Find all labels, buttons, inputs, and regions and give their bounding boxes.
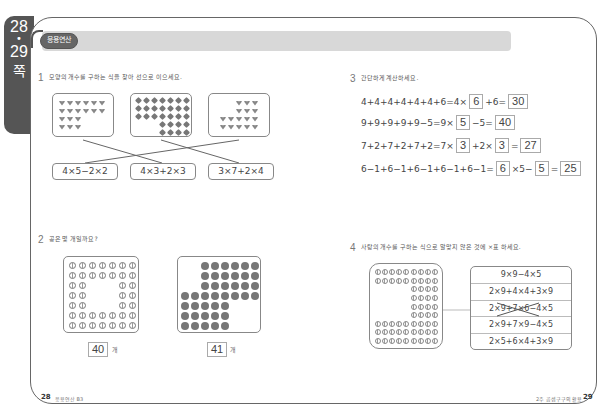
grid-cell — [381, 320, 388, 329]
candy-icon — [425, 286, 431, 292]
formula-choice-4[interactable]: 2×9+7×9−4×5 — [471, 317, 571, 334]
question-instruction: 간단하게 계산하세요. — [361, 74, 419, 81]
candy-icon — [382, 269, 388, 275]
grid-cell — [67, 320, 77, 330]
answer-box[interactable]: 27 — [520, 138, 540, 153]
equation-2: 9+9+9+9+9−5=9×5−5=40 — [361, 115, 517, 130]
grid-cell — [432, 311, 439, 320]
grid-cell — [417, 285, 424, 294]
candy-icon — [418, 304, 424, 310]
grid-cell — [127, 280, 137, 290]
answer-box[interactable]: 5 — [535, 161, 549, 176]
grid-cell — [388, 294, 395, 303]
baseball-icon — [109, 312, 116, 319]
grid-cell — [424, 268, 431, 277]
grid-cell — [190, 311, 200, 321]
right-footer-text: 2주 곱셈구구의 활용 — [536, 395, 582, 402]
candy-icon — [418, 312, 424, 318]
grid-cell — [424, 294, 431, 303]
candy-icon — [425, 304, 431, 310]
answer-box[interactable]: 6 — [469, 94, 483, 109]
grid-cell — [424, 328, 431, 337]
grid-cell — [410, 320, 417, 329]
candy-icon — [411, 304, 417, 310]
answer-box[interactable]: 5 — [456, 115, 470, 130]
candy-icon — [403, 278, 409, 284]
ball-grid — [180, 261, 260, 331]
grid-cell — [230, 281, 240, 291]
answer-box[interactable]: 40 — [495, 115, 515, 130]
connection-line — [83, 140, 162, 163]
grid-cell — [240, 291, 250, 301]
grid-cell — [127, 270, 137, 280]
grid-cell — [410, 294, 417, 303]
answer-box-2[interactable]: 41 — [207, 342, 227, 357]
candy-icon — [418, 338, 424, 344]
candy-icon — [389, 278, 395, 284]
baseball-icon — [129, 312, 136, 319]
grid-cell — [107, 300, 117, 310]
formula-choice-2[interactable]: 2×9+4×4+3×9 — [471, 284, 571, 301]
grid-cell — [220, 311, 230, 321]
answer-box[interactable]: 6 — [496, 161, 510, 176]
candy-icon — [403, 321, 409, 327]
grid-cell — [403, 311, 410, 320]
answer-box[interactable]: 3 — [456, 138, 470, 153]
grid-cell — [107, 280, 117, 290]
ball-icon — [211, 292, 219, 300]
cross-mark-icon — [495, 302, 541, 317]
answer-box[interactable]: 30 — [508, 94, 528, 109]
candy-icon — [403, 269, 409, 275]
grid-cell — [200, 311, 210, 321]
equation-3: 7+2+7+2+7+2=7×3+2×3=27 — [361, 138, 543, 153]
grid-cell — [417, 268, 424, 277]
formula-choice-5[interactable]: 2×5+6×4+3×9 — [471, 334, 571, 351]
ball-icon — [201, 262, 209, 270]
grid-cell — [403, 285, 410, 294]
grid-cell — [240, 311, 250, 321]
answer-box-1[interactable]: 40 — [88, 342, 108, 357]
grid-cell — [77, 280, 87, 290]
grid-cell — [127, 260, 137, 270]
grid-cell — [87, 280, 97, 290]
candy-icon — [425, 278, 431, 284]
grid-cell — [117, 290, 127, 300]
ball-icon — [221, 312, 229, 320]
candy-icon — [418, 269, 424, 275]
grid-cell — [210, 291, 220, 301]
ball-icon — [181, 322, 189, 330]
ball-icon — [211, 302, 219, 310]
baseball-icon — [69, 312, 76, 319]
grid-cell — [432, 268, 439, 277]
grid-cell — [410, 337, 417, 346]
baseball-icon — [109, 262, 116, 269]
candy-icon — [425, 312, 431, 318]
grid-cell — [417, 311, 424, 320]
ball-icon — [241, 272, 249, 280]
equation-1: 4+4+4+4+4+4+6=4×6+6=30 — [361, 94, 530, 109]
formula-option-3[interactable]: 3×7+2×4 — [208, 163, 274, 180]
formula-choice-3-crossed[interactable]: 2×9+7×6−4×5 — [471, 301, 571, 318]
formula-option-2[interactable]: 4×3+2×3 — [130, 163, 196, 180]
grid-cell — [210, 261, 220, 271]
baseball-icon — [129, 282, 136, 289]
formula-option-1[interactable]: 4×5−2×2 — [52, 163, 118, 180]
ball-icon — [211, 322, 219, 330]
grid-cell — [67, 290, 77, 300]
baseball-icon — [119, 312, 126, 319]
ball-icon — [191, 312, 199, 320]
ball-box-2 — [177, 256, 261, 333]
answer-box[interactable]: 25 — [560, 161, 580, 176]
ball-grid — [67, 260, 137, 330]
grid-cell — [127, 290, 137, 300]
baseball-icon — [129, 292, 136, 299]
grid-cell — [396, 337, 403, 346]
grid-cell — [424, 320, 431, 329]
answer-box[interactable]: 3 — [495, 138, 509, 153]
grid-cell — [388, 277, 395, 286]
grid-cell — [424, 277, 431, 286]
candy-icon — [432, 304, 438, 310]
formula-choice-1[interactable]: 9×9−4×5 — [471, 267, 571, 284]
baseball-icon — [119, 272, 126, 279]
grid-cell — [67, 260, 77, 270]
